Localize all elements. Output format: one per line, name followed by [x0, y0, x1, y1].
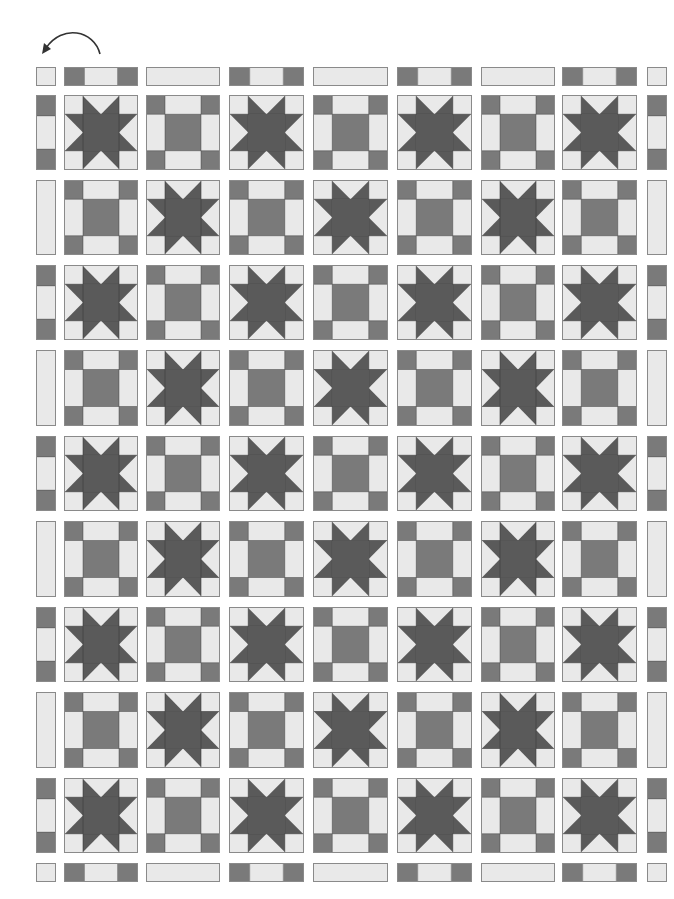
nine-patch-block [562, 692, 637, 768]
nine-patch-block [146, 95, 220, 170]
rotate-counterclockwise-arrow-icon [38, 22, 108, 58]
sashing-top-striped [229, 67, 304, 86]
nine-patch-block [146, 436, 220, 511]
corner-square-bottom-left [36, 863, 56, 882]
side-strip-left-striped [36, 607, 56, 682]
sawtooth-star-block [146, 180, 220, 255]
corner-square-bottom-right [647, 863, 667, 882]
sawtooth-star-block [397, 265, 472, 340]
nine-patch-block [481, 95, 555, 170]
nine-patch-block [146, 778, 220, 853]
nine-patch-block [64, 521, 138, 597]
sashing-bottom-striped [562, 863, 637, 882]
side-strip-right-plain [647, 692, 667, 768]
sawtooth-star-block [397, 95, 472, 170]
sawtooth-star-block [229, 265, 304, 340]
nine-patch-block [313, 778, 388, 853]
sawtooth-star-block [562, 607, 637, 682]
sawtooth-star-block [64, 778, 138, 853]
sashing-bottom-striped [64, 863, 138, 882]
sawtooth-star-block [64, 436, 138, 511]
nine-patch-block [229, 521, 304, 597]
sawtooth-star-block [146, 521, 220, 597]
nine-patch-block [313, 95, 388, 170]
sawtooth-star-block [313, 521, 388, 597]
sawtooth-star-block [313, 692, 388, 768]
nine-patch-block [481, 436, 555, 511]
sawtooth-star-block [481, 521, 555, 597]
sashing-bottom-plain [313, 863, 388, 882]
sawtooth-star-block [229, 607, 304, 682]
sawtooth-star-block [562, 778, 637, 853]
sashing-bottom-striped [397, 863, 472, 882]
side-strip-right-striped [647, 265, 667, 340]
nine-patch-block [397, 180, 472, 255]
sawtooth-star-block [229, 436, 304, 511]
corner-square-top-right [647, 67, 667, 86]
side-strip-left-plain [36, 350, 56, 426]
nine-patch-block [481, 607, 555, 682]
side-strip-right-striped [647, 778, 667, 853]
sashing-top-plain [313, 67, 388, 86]
nine-patch-block [313, 436, 388, 511]
sawtooth-star-block [64, 265, 138, 340]
nine-patch-block [64, 350, 138, 426]
nine-patch-block [313, 265, 388, 340]
side-strip-left-striped [36, 265, 56, 340]
sawtooth-star-block [313, 350, 388, 426]
nine-patch-block [562, 521, 637, 597]
side-strip-left-plain [36, 521, 56, 597]
sashing-bottom-plain [146, 863, 220, 882]
sawtooth-star-block [313, 180, 388, 255]
sawtooth-star-block [562, 436, 637, 511]
sawtooth-star-block [397, 778, 472, 853]
sashing-top-plain [146, 67, 220, 86]
nine-patch-block [64, 692, 138, 768]
quilt-layout-diagram [0, 0, 674, 899]
side-strip-right-striped [647, 436, 667, 511]
nine-patch-block [146, 607, 220, 682]
side-strip-right-plain [647, 180, 667, 255]
sawtooth-star-block [64, 607, 138, 682]
sashing-top-striped [562, 67, 637, 86]
sawtooth-star-block [397, 607, 472, 682]
sawtooth-star-block [146, 692, 220, 768]
side-strip-left-striped [36, 95, 56, 170]
nine-patch-block [397, 692, 472, 768]
side-strip-right-plain [647, 350, 667, 426]
nine-patch-block [229, 180, 304, 255]
side-strip-left-striped [36, 778, 56, 853]
nine-patch-block [229, 692, 304, 768]
nine-patch-block [397, 521, 472, 597]
sawtooth-star-block [562, 95, 637, 170]
nine-patch-block [481, 265, 555, 340]
sawtooth-star-block [481, 350, 555, 426]
nine-patch-block [562, 350, 637, 426]
sawtooth-star-block [562, 265, 637, 340]
sawtooth-star-block [64, 95, 138, 170]
sashing-bottom-striped [229, 863, 304, 882]
sawtooth-star-block [481, 180, 555, 255]
nine-patch-block [229, 350, 304, 426]
side-strip-right-striped [647, 607, 667, 682]
sashing-top-striped [397, 67, 472, 86]
nine-patch-block [481, 778, 555, 853]
nine-patch-block [562, 180, 637, 255]
side-strip-left-striped [36, 436, 56, 511]
sashing-top-plain [481, 67, 555, 86]
sawtooth-star-block [397, 436, 472, 511]
sashing-bottom-plain [481, 863, 555, 882]
nine-patch-block [146, 265, 220, 340]
side-strip-left-plain [36, 692, 56, 768]
nine-patch-block [313, 607, 388, 682]
side-strip-right-plain [647, 521, 667, 597]
sawtooth-star-block [146, 350, 220, 426]
nine-patch-block [64, 180, 138, 255]
side-strip-right-striped [647, 95, 667, 170]
sawtooth-star-block [229, 778, 304, 853]
sawtooth-star-block [481, 692, 555, 768]
sashing-top-striped [64, 67, 138, 86]
side-strip-left-plain [36, 180, 56, 255]
sawtooth-star-block [229, 95, 304, 170]
nine-patch-block [397, 350, 472, 426]
